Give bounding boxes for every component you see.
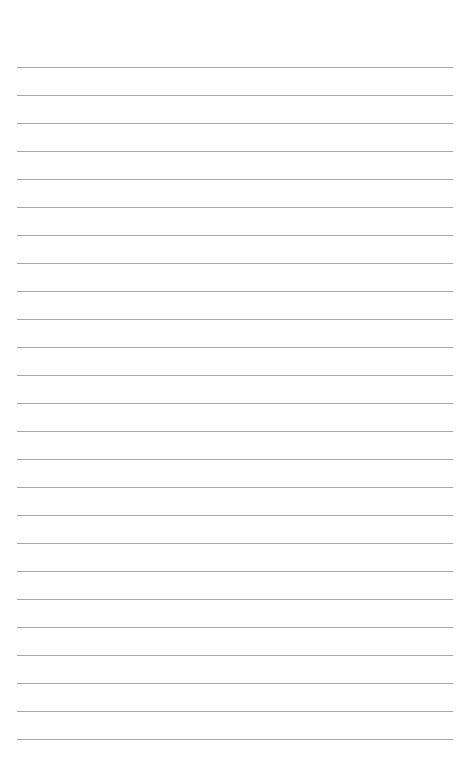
ruled-line xyxy=(17,711,453,712)
ruled-line xyxy=(17,515,453,516)
ruled-line xyxy=(17,151,453,152)
ruled-line xyxy=(17,431,453,432)
ruled-line xyxy=(17,235,453,236)
ruled-line xyxy=(17,459,453,460)
ruled-line xyxy=(17,487,453,488)
ruled-line xyxy=(17,655,453,656)
ruled-line xyxy=(17,347,453,348)
ruled-line xyxy=(17,67,453,68)
lined-paper-page xyxy=(0,0,469,772)
ruled-line xyxy=(17,375,453,376)
ruled-line xyxy=(17,95,453,96)
ruled-line xyxy=(17,627,453,628)
ruled-line xyxy=(17,123,453,124)
ruled-line xyxy=(17,291,453,292)
ruled-line xyxy=(17,179,453,180)
ruled-line xyxy=(17,207,453,208)
ruled-line xyxy=(17,599,453,600)
ruled-line xyxy=(17,403,453,404)
ruled-line xyxy=(17,683,453,684)
ruled-line xyxy=(17,263,453,264)
ruled-line xyxy=(17,543,453,544)
ruled-line xyxy=(17,319,453,320)
ruled-line xyxy=(17,571,453,572)
ruled-line xyxy=(17,739,453,740)
